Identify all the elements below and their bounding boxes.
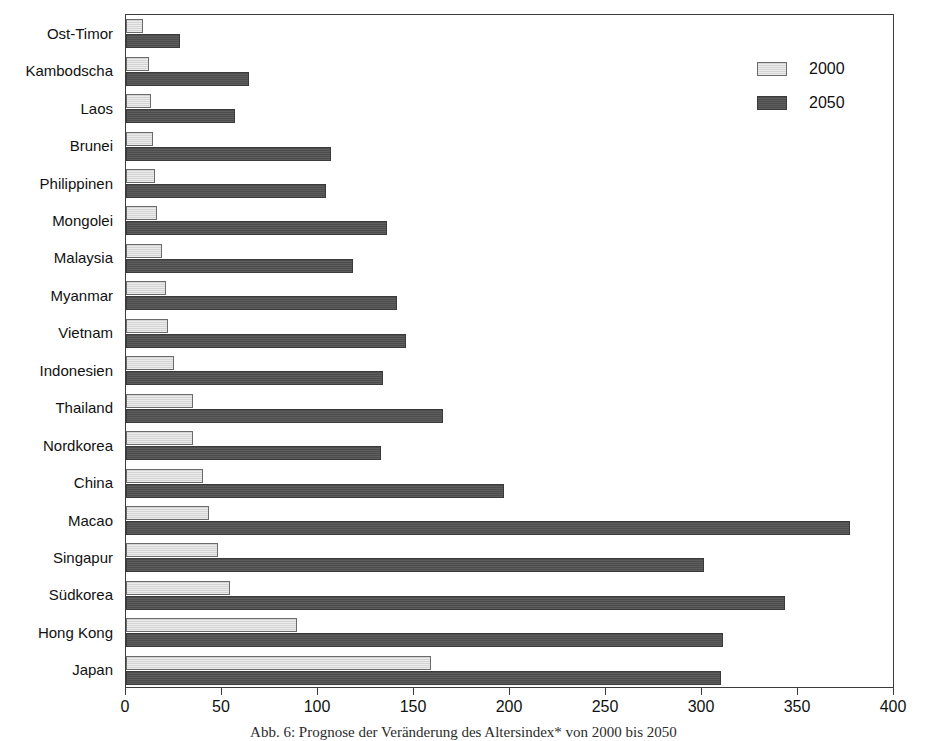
y-axis-label: Südkorea — [49, 587, 113, 602]
legend-label-2000: 2000 — [809, 61, 845, 77]
legend-item-2000: 2000 — [757, 52, 887, 86]
bar-2000 — [126, 656, 431, 670]
bar-2050 — [126, 671, 721, 685]
bar-2050 — [126, 633, 723, 647]
x-axis-tick — [413, 687, 414, 695]
bar-2050 — [126, 521, 850, 535]
x-axis-tick-label: 100 — [304, 698, 331, 715]
y-axis-label: Laos — [80, 101, 113, 116]
y-axis-label: Brunei — [70, 138, 113, 153]
legend-label-2050: 2050 — [809, 95, 845, 111]
bar-2050 — [126, 558, 704, 572]
bar-2050 — [126, 184, 326, 198]
x-axis-tick-label: 400 — [880, 698, 907, 715]
chart-page: Ost-TimorKambodschaLaosBruneiPhilippinen… — [0, 0, 927, 741]
bar-2050 — [126, 259, 353, 273]
y-axis-label: Myanmar — [50, 288, 113, 303]
x-axis-tick-label: 300 — [688, 698, 715, 715]
bar-2050 — [126, 296, 397, 310]
bar-2000 — [126, 19, 143, 33]
bar-2000 — [126, 94, 151, 108]
x-axis-tick-label: 150 — [400, 698, 427, 715]
y-axis-label: Mongolei — [52, 213, 113, 228]
y-axis-label: Ost-Timor — [47, 26, 113, 41]
y-axis-label: Thailand — [55, 400, 113, 415]
bar-2000 — [126, 169, 155, 183]
y-axis-label: Nordkorea — [43, 438, 113, 453]
bar-2050 — [126, 371, 383, 385]
x-axis-tick — [893, 687, 894, 695]
y-axis-label: Singapur — [53, 550, 113, 565]
x-axis-tick-label: 0 — [121, 698, 130, 715]
y-axis-label: Hong Kong — [38, 625, 113, 640]
legend-swatch-2000-icon — [757, 62, 787, 76]
x-axis-tick — [125, 687, 126, 695]
bar-2050 — [126, 147, 331, 161]
bar-2050 — [126, 446, 381, 460]
x-axis-tick-label: 350 — [784, 698, 811, 715]
y-axis-label: Indonesien — [40, 363, 113, 378]
bar-2050 — [126, 221, 387, 235]
bar-2000 — [126, 394, 193, 408]
x-axis-tick-label: 50 — [212, 698, 230, 715]
x-axis-tick-label: 200 — [496, 698, 523, 715]
legend-item-2050: 2050 — [757, 86, 887, 120]
legend-swatch-2050-icon — [757, 96, 787, 110]
x-axis-tick-label: 250 — [592, 698, 619, 715]
x-axis-tick — [509, 687, 510, 695]
x-axis: 050100150200250300350400 — [125, 687, 895, 727]
x-axis-tick — [221, 687, 222, 695]
figure-caption: Abb. 6: Prognose der Veränderung des Alt… — [0, 723, 927, 741]
bar-2000 — [126, 206, 157, 220]
bar-2000 — [126, 244, 162, 258]
bar-2000 — [126, 469, 203, 483]
bar-2000 — [126, 281, 166, 295]
x-axis-tick — [317, 687, 318, 695]
bar-2000 — [126, 319, 168, 333]
bar-2050 — [126, 72, 249, 86]
bar-2000 — [126, 57, 149, 71]
y-axis-label: Vietnam — [58, 325, 113, 340]
y-axis-label: Japan — [72, 662, 113, 677]
y-axis-label: Macao — [68, 513, 113, 528]
y-axis-category-labels: Ost-TimorKambodschaLaosBruneiPhilippinen… — [0, 14, 119, 688]
y-axis-label: Kambodscha — [25, 63, 113, 78]
x-axis-tick — [701, 687, 702, 695]
y-axis-label: Malaysia — [54, 250, 113, 265]
bar-2000 — [126, 431, 193, 445]
bar-2050 — [126, 409, 443, 423]
x-axis-tick — [797, 687, 798, 695]
bar-2000 — [126, 581, 230, 595]
bar-2000 — [126, 132, 153, 146]
bar-2000 — [126, 543, 218, 557]
bar-2000 — [126, 506, 209, 520]
y-axis-label: Philippinen — [40, 176, 113, 191]
bar-2050 — [126, 109, 235, 123]
bar-2000 — [126, 618, 297, 632]
bar-2000 — [126, 356, 174, 370]
bar-2050 — [126, 484, 504, 498]
chart-legend: 2000 2050 — [757, 52, 887, 120]
x-axis-tick — [605, 687, 606, 695]
bar-2050 — [126, 34, 180, 48]
bar-2050 — [126, 596, 785, 610]
bar-2050 — [126, 334, 406, 348]
y-axis-label: China — [74, 475, 113, 490]
